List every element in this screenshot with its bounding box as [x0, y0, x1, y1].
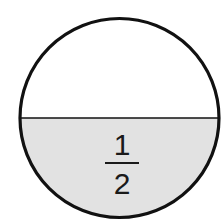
fraction-denominator: 2 — [114, 167, 131, 200]
fraction-circle-diagram: 1 2 — [0, 0, 222, 221]
fraction-numerator: 1 — [114, 128, 131, 161]
